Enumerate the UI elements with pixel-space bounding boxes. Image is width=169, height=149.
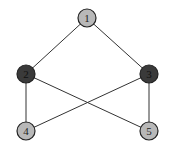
node-label: 2 [23, 68, 29, 80]
node-label: 3 [146, 68, 152, 80]
node-2: 2 [17, 65, 35, 83]
node-label: 4 [23, 125, 29, 137]
node-5: 5 [140, 122, 158, 140]
graph-diagram: 12345 [0, 0, 169, 149]
node-label: 5 [146, 125, 152, 137]
node-1: 1 [78, 9, 96, 27]
node-3: 3 [140, 65, 158, 83]
edges [26, 18, 149, 131]
edge-1-2 [26, 18, 87, 74]
node-4: 4 [17, 122, 35, 140]
nodes: 12345 [17, 9, 158, 140]
edge-1-3 [87, 18, 149, 74]
node-label: 1 [84, 12, 90, 24]
